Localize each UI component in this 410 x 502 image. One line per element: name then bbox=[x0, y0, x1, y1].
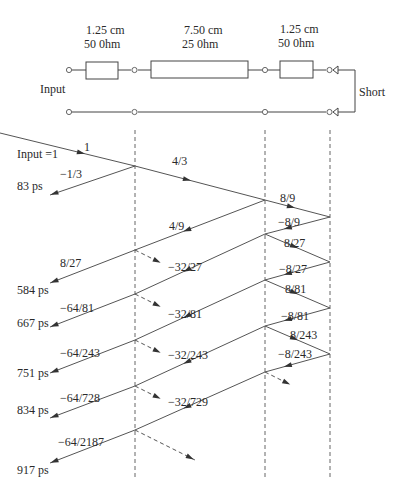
transmitted-ray bbox=[135, 166, 265, 200]
short-label: Short bbox=[359, 85, 386, 99]
backward-coef: 4/9 bbox=[169, 219, 184, 233]
connector-icon bbox=[333, 108, 338, 116]
time-label: 83 ps bbox=[17, 179, 43, 193]
dashed-coef: −32/243 bbox=[168, 348, 208, 362]
node-terminal bbox=[132, 67, 137, 72]
dashed-ray bbox=[135, 430, 195, 460]
bounce-down-coef: −8/27 bbox=[279, 262, 307, 276]
segment-2-box bbox=[151, 61, 248, 78]
dashed-coef: −32/729 bbox=[168, 395, 208, 409]
through-coef-2: 8/9 bbox=[280, 191, 295, 205]
arrowhead-icon bbox=[50, 458, 59, 466]
returned-coef: 8/27 bbox=[60, 256, 81, 270]
node-terminal bbox=[66, 109, 71, 114]
lattice-diagram: 1.25 cm 50 0hm 7.50 cm 25 0hm 1.25 cm 50… bbox=[0, 0, 410, 502]
bounce-down-coef: −8/9 bbox=[278, 215, 300, 229]
caption-cutoff bbox=[0, 488, 410, 502]
through-coef-1: 4/3 bbox=[172, 154, 187, 168]
circuit-schematic: 1.25 cm 50 0hm 7.50 cm 25 0hm 1.25 cm 50… bbox=[40, 22, 386, 116]
arrowhead-icon bbox=[152, 257, 161, 265]
arrowhead-icon bbox=[182, 176, 191, 183]
arrowhead-icon bbox=[283, 362, 292, 369]
dashed-coef: −32/27 bbox=[168, 260, 202, 274]
segment-3-box bbox=[280, 61, 313, 78]
returned-coef: −64/2187 bbox=[58, 435, 104, 449]
returned-time: 667 ps bbox=[17, 316, 49, 330]
segment-1-length: 1.25 cm bbox=[86, 23, 125, 37]
arrowhead-icon bbox=[50, 322, 59, 330]
node-terminal bbox=[132, 109, 137, 114]
ray-group bbox=[0, 133, 330, 465]
connector-icon bbox=[333, 66, 338, 74]
returned-time: 917 ps bbox=[17, 463, 49, 477]
bounce-down-coef: −8/243 bbox=[278, 347, 312, 361]
input-label: Input bbox=[40, 82, 66, 96]
arrowhead-icon bbox=[282, 379, 291, 387]
returned-coef: −64/81 bbox=[60, 301, 94, 315]
node-terminal bbox=[262, 109, 267, 114]
returned-time: 751 ps bbox=[17, 366, 49, 380]
reflection-coef: −1/3 bbox=[60, 167, 82, 181]
segment-1-box bbox=[86, 62, 118, 79]
arrowhead-icon bbox=[152, 301, 161, 309]
node-terminal bbox=[66, 67, 71, 72]
node-terminal bbox=[327, 109, 332, 114]
segment-2-impedance: 25 0hm bbox=[182, 37, 219, 51]
lattice: Input =1 1 −1/3 83 ps 4/3 8/9 4/9 −8/9 8… bbox=[0, 130, 330, 478]
arrowhead-icon bbox=[50, 368, 59, 376]
returned-coef: −64/728 bbox=[60, 391, 100, 405]
arrowhead-icon bbox=[50, 413, 59, 420]
returned-time: 834 ps bbox=[17, 403, 49, 417]
node-terminal bbox=[262, 67, 267, 72]
segment-3-length: 1.25 cm bbox=[280, 22, 319, 36]
arrowhead-icon bbox=[152, 393, 161, 401]
bounce-up-coef: 8/81 bbox=[285, 282, 306, 296]
incident-coef: 1 bbox=[84, 140, 90, 154]
short-wire bbox=[338, 70, 355, 112]
returned-coef: −64/243 bbox=[60, 346, 100, 360]
input-value-label: Input =1 bbox=[17, 147, 58, 161]
arrowhead-icon bbox=[50, 190, 59, 197]
node-terminal bbox=[327, 67, 332, 72]
dashed-coef: −32/81 bbox=[168, 307, 202, 321]
segment-1-impedance: 50 0hm bbox=[84, 37, 121, 51]
bounce-down-coef: −8/81 bbox=[281, 309, 309, 323]
arrowhead-icon bbox=[152, 347, 161, 355]
segment-3-impedance: 50 0hm bbox=[278, 36, 315, 50]
returned-time: 584 ps bbox=[17, 283, 49, 297]
segment-2-length: 7.50 cm bbox=[184, 23, 223, 37]
arrowhead-icon bbox=[186, 454, 195, 462]
bounce-up-coef: 8/27 bbox=[284, 236, 305, 250]
bounce-up-coef: 8/243 bbox=[290, 328, 317, 342]
arrowhead-icon bbox=[50, 278, 59, 286]
